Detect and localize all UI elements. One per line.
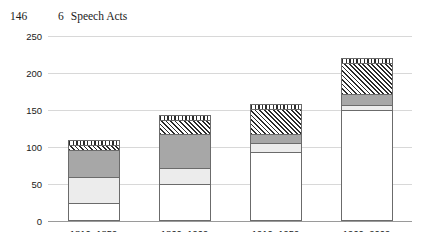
bar-segment-series-1[interactable] xyxy=(250,152,302,221)
bar-segment-series-5[interactable] xyxy=(159,115,211,120)
running-head: 6Speech Acts xyxy=(58,8,127,24)
bar-segment-series-1[interactable] xyxy=(159,184,211,221)
bar-segment-series-3[interactable] xyxy=(341,94,393,105)
bar-segment-series-3[interactable] xyxy=(159,134,211,168)
bar-segment-series-5[interactable] xyxy=(68,140,120,145)
bar-segment-series-2[interactable] xyxy=(341,105,393,110)
bar-segment-series-1[interactable] xyxy=(341,110,393,221)
chapter-title: Speech Acts xyxy=(71,10,128,22)
y-axis-tick-label: 150 xyxy=(26,105,42,116)
stacked-bar[interactable] xyxy=(250,104,302,221)
y-axis-tick-label: 100 xyxy=(26,142,42,153)
chapter-number: 6 xyxy=(58,10,64,22)
page-folio-number: 146 xyxy=(10,8,27,24)
bar-segment-series-3[interactable] xyxy=(68,150,120,177)
x-axis-tick-label: 1860–1909 xyxy=(161,228,209,232)
bar-segment-series-4[interactable] xyxy=(250,109,302,134)
y-axis-tick-label: 0 xyxy=(37,216,42,227)
bar-segment-series-2[interactable] xyxy=(68,177,120,203)
bar-segment-series-4[interactable] xyxy=(159,120,211,133)
stacked-bar[interactable] xyxy=(159,115,211,221)
bar-segment-series-1[interactable] xyxy=(68,203,120,222)
bar-group[interactable]: 1960–2009 xyxy=(341,36,393,221)
stacked-bar[interactable] xyxy=(341,58,393,221)
bar-group[interactable]: 1860–1909 xyxy=(159,36,211,221)
bar-segment-series-5[interactable] xyxy=(341,58,393,62)
stacked-bar[interactable] xyxy=(68,140,120,221)
bar-group[interactable]: 1910–1959 xyxy=(250,36,302,221)
y-axis-tick-label: 250 xyxy=(26,31,42,42)
x-axis-tick-label: 1810–1859 xyxy=(70,228,118,232)
stacked-bar-chart: 0501001502002501810–18591860–19091910–19… xyxy=(0,28,430,232)
page-header: 146 6Speech Acts xyxy=(0,8,430,24)
bar-segment-series-2[interactable] xyxy=(250,143,302,152)
bar-group[interactable]: 1810–1859 xyxy=(68,36,120,221)
bar-segment-series-2[interactable] xyxy=(159,168,211,184)
y-axis-tick-label: 50 xyxy=(31,179,42,190)
x-axis-tick-label: 1960–2009 xyxy=(343,228,391,232)
x-axis-tick-label: 1910–1959 xyxy=(252,228,300,232)
plot-area: 0501001502002501810–18591860–19091910–19… xyxy=(48,36,412,221)
bar-segment-series-3[interactable] xyxy=(250,134,302,144)
bar-segment-series-5[interactable] xyxy=(250,104,302,108)
bar-segment-series-4[interactable] xyxy=(68,145,120,150)
bar-segment-series-4[interactable] xyxy=(341,63,393,94)
y-axis-tick-label: 200 xyxy=(26,68,42,79)
